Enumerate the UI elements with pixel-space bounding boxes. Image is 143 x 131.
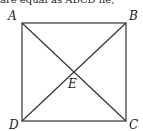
label-e: E (67, 77, 77, 91)
label-c: C (129, 118, 138, 131)
square-diagram: A B D C E (0, 0, 143, 131)
label-a: A (7, 9, 17, 23)
label-b: B (128, 9, 138, 23)
label-d: D (8, 118, 19, 131)
